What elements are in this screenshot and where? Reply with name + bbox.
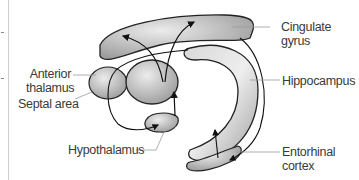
hypothalamus-shape: [145, 113, 178, 132]
thalamus-shape: [126, 60, 178, 104]
label-hippocampus: Hippocampus: [282, 74, 355, 88]
hippocampus-shape: [184, 45, 258, 160]
label-entorhinal-cortex: Entorhinal cortex: [282, 145, 335, 173]
label-hypothalamus: Hypothalamus: [68, 143, 144, 157]
label-anterior-thalamus: Anterior thalamus: [26, 67, 71, 95]
label-septal-area: Septal area: [18, 97, 79, 111]
label-cingulate-gyrus: Cingulate gyrus: [281, 20, 331, 48]
